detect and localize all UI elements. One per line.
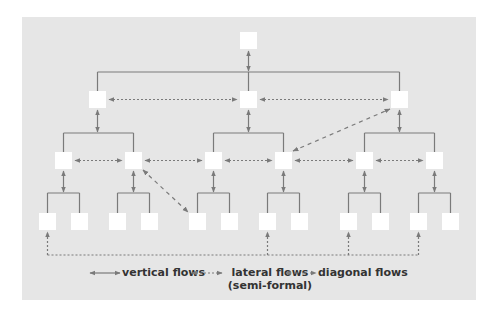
level3-node [39, 213, 56, 230]
level3-node [410, 213, 427, 230]
level2-node [356, 152, 373, 169]
level2-node [426, 152, 443, 169]
level3-node [442, 213, 459, 230]
level1-node [391, 91, 408, 108]
level2-node [55, 152, 72, 169]
level3-node [109, 213, 126, 230]
level3-node [372, 213, 389, 230]
level3-node [221, 213, 238, 230]
diagonal-flow-arrow-icon [284, 269, 318, 277]
level3-node [71, 213, 88, 230]
vertical-flow-arrow-icon [88, 269, 122, 277]
legend-lateral-sublabel: (semi-formal) [228, 279, 312, 292]
legend-diagonal: diagonal flows [284, 266, 408, 279]
top-node [240, 32, 257, 49]
level1-node [89, 91, 106, 108]
legend-vertical: vertical flows [88, 266, 205, 279]
level2-node [275, 152, 292, 169]
level3-node [141, 213, 158, 230]
level2-node [205, 152, 222, 169]
level3-node [189, 213, 206, 230]
level2-node [125, 152, 142, 169]
level3-node [291, 213, 308, 230]
legend-diagonal-label: diagonal flows [318, 266, 408, 279]
level3-node [340, 213, 357, 230]
lateral-flow-arrow-icon [190, 269, 224, 277]
level1-node [240, 91, 257, 108]
level3-node [259, 213, 276, 230]
diagonal-flow [293, 109, 390, 151]
